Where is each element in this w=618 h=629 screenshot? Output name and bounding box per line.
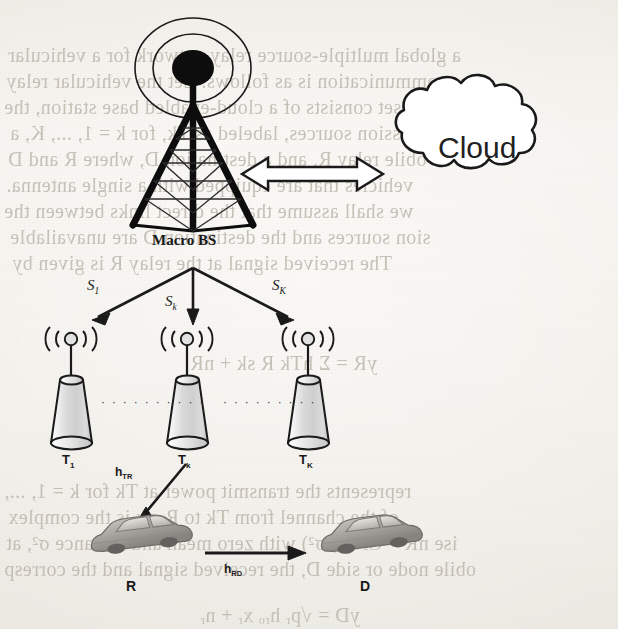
- macro-bs-tower: [133, 18, 253, 231]
- label-macro-bs: Macro BS: [152, 232, 216, 249]
- channel-arrow-hrd: [205, 546, 306, 560]
- signal-arrows: [92, 268, 294, 325]
- label-channel-htr: hTR: [115, 465, 132, 481]
- label-transmitter-t1: T1: [62, 452, 74, 470]
- small-cell-antenna-K: [283, 327, 334, 449]
- label-relay-r: R: [126, 578, 136, 594]
- ellipsis-right: · · · · · · · · · ·: [223, 395, 327, 409]
- small-cell-antenna-k: [162, 327, 213, 449]
- backhaul-double-arrow: [242, 158, 383, 190]
- label-transmitter-tK: TK: [299, 452, 313, 470]
- label-signal-s1: S1: [87, 277, 99, 296]
- ellipsis-left: · · · · · · · · · ·: [101, 395, 205, 409]
- channel-arrow-htr: [136, 464, 186, 524]
- small-cell-antenna-1: [46, 327, 97, 449]
- figure-canvas: a global multiple-source relay network f…: [0, 0, 618, 629]
- vehicle-relay-R: [89, 511, 194, 557]
- vehicle-destination-D: [319, 511, 424, 557]
- label-channel-hrd: hRD: [224, 562, 242, 578]
- network-diagram-svg: [0, 0, 618, 629]
- label-signal-sk: Sk: [165, 293, 177, 312]
- label-transmitter-tk: Tk: [178, 452, 190, 470]
- label-cloud: Cloud: [438, 131, 516, 165]
- label-signal-sK: SK: [272, 277, 286, 296]
- label-destination-d: D: [360, 578, 370, 594]
